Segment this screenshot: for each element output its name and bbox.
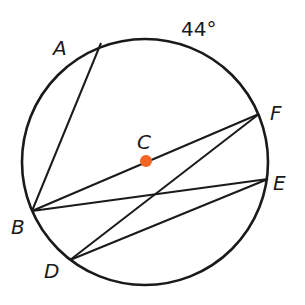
label-a: A (51, 36, 67, 60)
label-c: C (137, 130, 151, 154)
label-d: D (44, 259, 59, 283)
arc-measure-label: 44° (181, 17, 216, 41)
label-e: E (273, 171, 286, 195)
label-b: B (11, 215, 25, 239)
circle-diagram: A 44° F C E B D (0, 0, 305, 305)
center-point-c (140, 155, 152, 167)
label-f: F (270, 101, 282, 125)
chord-df (70, 114, 259, 260)
chord-de (70, 179, 268, 260)
